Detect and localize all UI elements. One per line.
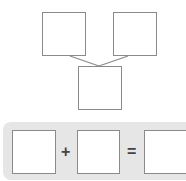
tree-box-top-right[interactable]: [113, 12, 157, 56]
equation-result-box[interactable]: [144, 130, 186, 174]
equation-operand-1-box[interactable]: [12, 130, 56, 174]
tree-box-top-left[interactable]: [42, 12, 86, 56]
plus-sign: +: [61, 144, 70, 160]
equation-operand-2-box[interactable]: [77, 130, 120, 174]
tree-box-bottom[interactable]: [78, 66, 122, 110]
equals-sign: =: [127, 144, 136, 160]
